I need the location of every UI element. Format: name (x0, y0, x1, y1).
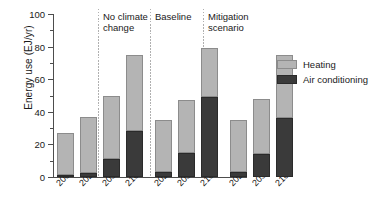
bar-stack (201, 48, 218, 177)
chart-figure: Energy use (EJ/yr) 020406080100 20002020… (0, 0, 376, 218)
y-axis-label: Energy use (EJ/yr) (23, 0, 34, 148)
bar-segment-air-conditioning (57, 175, 74, 177)
legend-item-air-conditioning: Air conditioning (277, 72, 368, 87)
y-tick-label: 100 (5, 10, 45, 20)
bar-segment-heating (201, 48, 218, 97)
bar-stack (126, 55, 143, 177)
group-annotation-baseline: Baseline (155, 11, 191, 22)
bar-segment-heating (178, 100, 195, 153)
y-tick-label: 60 (5, 75, 45, 85)
bar-segment-air-conditioning (103, 159, 120, 177)
bar-stack (80, 117, 97, 177)
y-tick-label: 20 (5, 140, 45, 150)
bar-stack (178, 100, 195, 177)
y-tick-minor (50, 128, 54, 129)
bar-segment-heating (155, 120, 172, 172)
y-tick-label: 0 (5, 173, 45, 183)
y-tick-major (48, 144, 54, 145)
y-tick-major (48, 79, 54, 80)
group-annotation-mitigation-scenario: Mitigation scenario (208, 11, 249, 33)
bar-stack (230, 120, 247, 177)
y-tick-minor (50, 63, 54, 64)
bar-segment-heating (103, 96, 120, 160)
bar-segment-heating (253, 99, 270, 154)
y-tick-major (48, 47, 54, 48)
y-tick-minor (50, 30, 54, 31)
bar-segment-air-conditioning (80, 173, 97, 177)
group-separator-2 (150, 9, 151, 177)
group-separator-1 (98, 9, 99, 177)
legend-swatch-heating-icon (277, 60, 297, 69)
bar-segment-air-conditioning (178, 153, 195, 177)
bar-segment-air-conditioning (253, 154, 270, 177)
bar-segment-heating (230, 120, 247, 172)
y-tick-label: 40 (5, 108, 45, 118)
bar-segment-heating (80, 117, 97, 173)
group-annotation-no-climate-change: No climate change (103, 11, 148, 33)
chart-legend: Heating Air conditioning (277, 57, 368, 87)
bar-segment-air-conditioning (155, 172, 172, 177)
legend-swatch-air-conditioning-icon (277, 75, 297, 84)
bar-stack (103, 96, 120, 178)
legend-label-heating: Heating (303, 59, 336, 70)
bar-segment-heating (126, 55, 143, 132)
bar-stack (253, 99, 270, 177)
bar-stack (57, 133, 74, 177)
bar-segment-air-conditioning (230, 172, 247, 177)
y-tick-major (48, 14, 54, 15)
legend-item-heating: Heating (277, 57, 368, 72)
bar-segment-heating (57, 133, 74, 175)
bar-segment-air-conditioning (126, 131, 143, 177)
legend-label-air-conditioning: Air conditioning (303, 74, 368, 85)
y-tick-minor (50, 161, 54, 162)
bar-stack (155, 120, 172, 177)
y-tick-label: 80 (5, 43, 45, 53)
y-tick-major (48, 112, 54, 113)
bar-segment-air-conditioning (201, 97, 218, 177)
y-tick-minor (50, 96, 54, 97)
bar-segment-air-conditioning (276, 118, 293, 177)
